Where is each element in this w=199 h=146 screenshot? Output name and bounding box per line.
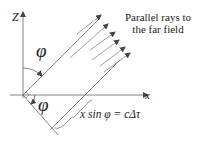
ray-from-origin: [23, 18, 100, 95]
parallel-ray: [90, 32, 115, 50]
parallel-ray: [92, 40, 119, 60]
angle-upper-label: φ: [36, 40, 47, 62]
caption-line-1: Parallel rays to: [118, 11, 198, 23]
parallel-ray: [100, 47, 125, 66]
path-difference-equation: x sin φ = cΔτ: [80, 108, 140, 120]
parallel-ray: [104, 53, 130, 72]
angle-arc-lower: [31, 95, 35, 104]
caption-line-2: the far field: [118, 23, 198, 35]
z-axis-label: Z: [12, 10, 19, 25]
parallel-ray: [77, 15, 101, 34]
angle-arc-upper: [23, 68, 42, 76]
far-field-geometry-diagram: Z x φ φ Parallel rays to the far field x…: [0, 0, 199, 146]
far-field-caption: Parallel rays to the far field: [118, 11, 198, 35]
x-axis-label: x: [145, 89, 150, 101]
angle-lower-label: φ: [38, 94, 49, 116]
